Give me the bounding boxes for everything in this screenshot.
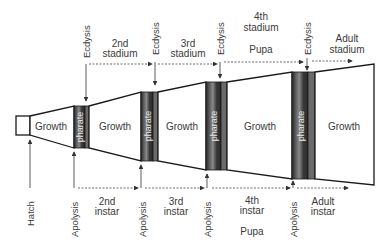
pharate-2: pharate bbox=[141, 92, 158, 161]
pharate-label-4: pharate bbox=[296, 111, 306, 142]
apolysis-4: Apolysis bbox=[288, 181, 299, 237]
svg-text:Pupa: Pupa bbox=[240, 226, 264, 237]
pharate-4: pharate bbox=[292, 72, 315, 179]
stadium-label-adult: Adult stadium bbox=[329, 33, 364, 55]
stadium-label-4th: 4th stadium Pupa bbox=[243, 11, 278, 55]
apolysis-1: Apolysis bbox=[69, 152, 80, 237]
pharate-label-1: pharate bbox=[75, 112, 85, 143]
pharate-label-3: pharate bbox=[209, 111, 219, 142]
apolysis-2: Apolysis bbox=[137, 165, 148, 237]
growth-label-2: Growth bbox=[99, 121, 131, 132]
svg-text:stadium: stadium bbox=[102, 48, 137, 59]
svg-text:instar: instar bbox=[95, 206, 120, 217]
svg-text:Pupa: Pupa bbox=[249, 44, 273, 55]
svg-text:Apolysis: Apolysis bbox=[202, 201, 213, 237]
stadium-label-2nd: 2nd stadium bbox=[102, 38, 137, 59]
svg-text:Ecdysis: Ecdysis bbox=[150, 22, 161, 55]
svg-text:4th: 4th bbox=[254, 11, 268, 22]
svg-text:Apolysis: Apolysis bbox=[137, 201, 148, 237]
svg-text:instar: instar bbox=[240, 205, 265, 216]
svg-text:stadium: stadium bbox=[243, 22, 278, 33]
pharate-1: pharate bbox=[74, 106, 89, 148]
pharate-label-2: pharate bbox=[143, 111, 153, 142]
hatch-event: Hatch bbox=[25, 140, 36, 226]
ecdysis-4: Ecdysis bbox=[302, 22, 313, 70]
svg-text:Ecdysis: Ecdysis bbox=[215, 22, 226, 55]
ecdysis-1: Ecdysis bbox=[81, 25, 92, 101]
svg-text:Adult: Adult bbox=[336, 33, 359, 44]
ecdysis-3: Ecdysis bbox=[215, 22, 226, 78]
svg-text:Apolysis: Apolysis bbox=[69, 201, 80, 237]
diagram-canvas: Growth pharate Growth pharate Growth pha… bbox=[0, 0, 391, 248]
growth-label-1: Growth bbox=[35, 121, 67, 132]
svg-text:Hatch: Hatch bbox=[25, 201, 36, 226]
ecdysis-2: Ecdysis bbox=[150, 22, 161, 85]
molting-diagram: Growth pharate Growth pharate Growth pha… bbox=[0, 0, 391, 248]
instar-label-2nd: 2nd instar bbox=[95, 196, 120, 217]
svg-text:instar: instar bbox=[311, 206, 336, 217]
svg-text:stadium: stadium bbox=[329, 44, 364, 55]
growth-label-5: Growth bbox=[328, 121, 360, 132]
apolysis-3: Apolysis bbox=[202, 174, 213, 237]
hatch-box bbox=[16, 116, 30, 135]
instar-label-adult: Adult instar bbox=[311, 196, 336, 217]
instar-label-3rd: 3rd instar bbox=[164, 196, 189, 217]
stadium-arrows bbox=[89, 61, 352, 64]
svg-text:Apolysis: Apolysis bbox=[288, 201, 299, 237]
pharate-3: pharate bbox=[206, 82, 227, 170]
growth-label-3: Growth bbox=[166, 121, 198, 132]
instar-label-4th: 4th instar Pupa bbox=[240, 195, 265, 237]
svg-text:Ecdysis: Ecdysis bbox=[81, 25, 92, 58]
stadium-label-3rd: 3rd stadium bbox=[170, 38, 205, 59]
growth-label-4: Growth bbox=[244, 121, 276, 132]
svg-text:stadium: stadium bbox=[170, 48, 205, 59]
svg-text:Ecdysis: Ecdysis bbox=[302, 22, 313, 55]
svg-text:instar: instar bbox=[164, 206, 189, 217]
